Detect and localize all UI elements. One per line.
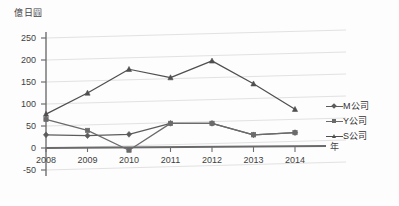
legend-item-label: S公司	[343, 132, 368, 141]
data-point-marker	[127, 148, 131, 152]
data-point-marker	[43, 132, 48, 138]
legend-marker-icon	[326, 117, 343, 126]
data-point-marker	[85, 133, 90, 139]
series-line	[46, 61, 295, 114]
gridline	[46, 162, 346, 170]
legend-marker-icon	[326, 132, 343, 141]
legend-marker-icon	[326, 102, 343, 111]
data-point-marker	[85, 90, 90, 95]
legend-item[interactable]: S公司	[326, 129, 398, 144]
gridline	[46, 96, 346, 104]
line-chart: 億日圓 250200150100500-50 20082009201020112…	[0, 0, 399, 206]
data-point-marker	[251, 133, 255, 137]
gridline	[46, 118, 346, 126]
data-point-marker	[209, 58, 214, 63]
gridline	[46, 52, 346, 60]
legend-item-label: M公司	[343, 102, 369, 111]
data-point-marker	[293, 130, 297, 134]
legend-item[interactable]: M公司	[326, 99, 398, 114]
data-point-marker	[126, 66, 131, 71]
data-point-marker	[292, 106, 297, 111]
legend-item-label: Y公司	[343, 117, 368, 126]
gridline	[46, 30, 346, 38]
x-axis-name-label: 年	[330, 143, 339, 152]
gridline	[46, 74, 346, 82]
data-point-marker	[210, 121, 214, 125]
data-point-marker	[85, 128, 89, 132]
data-point-marker	[44, 117, 48, 121]
legend-item[interactable]: Y公司	[326, 114, 398, 129]
chart-legend: M公司Y公司S公司	[326, 99, 398, 144]
data-point-marker	[126, 131, 131, 137]
data-point-marker	[168, 121, 172, 125]
